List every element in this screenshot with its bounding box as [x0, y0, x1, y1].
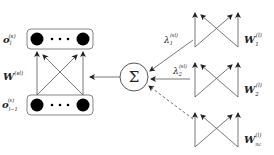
top-layer-node: [27, 29, 93, 49]
bottom-layer-node: [27, 95, 93, 115]
lambda-1-label: λ1(sl): [163, 32, 178, 46]
weight-1-label: W1(l): [244, 32, 262, 47]
left-layer-group: ol(s) ol−1(s) W(sl): [2, 29, 120, 115]
inter-layer-connections: [37, 52, 83, 95]
top-layer-label: ol(s): [3, 33, 16, 46]
weight-block-nc: [195, 113, 238, 147]
lambda-2-label: λ2(sl): [172, 63, 187, 77]
bottom-layer-label: ol−1(s): [2, 97, 18, 112]
weight-2-label: W2(l): [244, 82, 262, 97]
blocknc-to-sum-dashed-arrow: [149, 86, 193, 119]
right-blocks-group: [149, 13, 238, 147]
diagram-canvas: ol(s) ol−1(s) W(sl) Σ: [0, 0, 274, 155]
sigma-icon: Σ: [129, 68, 140, 86]
weight-matrix-label: W(sl): [3, 70, 23, 82]
sum-node: Σ: [120, 63, 148, 91]
weight-block-1: [195, 13, 238, 47]
weight-nc-label: Wnc(l): [244, 132, 261, 147]
weight-block-2: [195, 63, 238, 97]
